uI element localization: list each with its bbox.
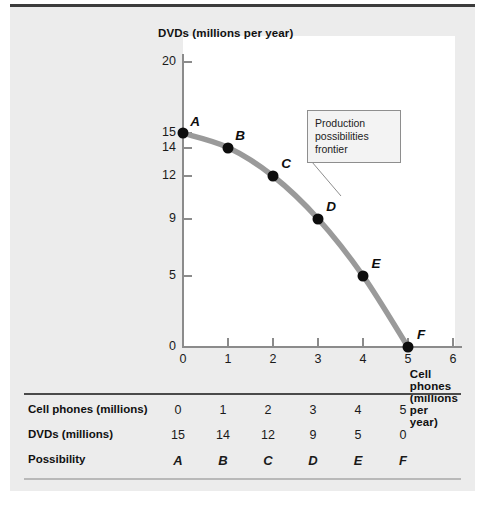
y-tick-label: 0 <box>169 339 176 353</box>
y-tick-mark <box>183 275 192 277</box>
table-cell: C <box>263 453 272 468</box>
table-cell: 0 <box>175 403 182 417</box>
plot-area <box>183 36 455 347</box>
y-tick-mark <box>183 61 192 63</box>
data-table: Cell phones (millions)012345DVDs (millio… <box>24 399 461 474</box>
point-label-f: F <box>417 327 425 342</box>
point-label-a: A <box>190 114 200 129</box>
y-tick-label: 9 <box>169 211 176 225</box>
table-cell: 3 <box>310 403 317 417</box>
x-axis-line <box>183 346 462 348</box>
point-label-b: B <box>235 127 245 142</box>
data-point-f <box>403 342 414 353</box>
table-row: Cell phones (millions)012345 <box>24 399 461 424</box>
table-cell: 4 <box>355 403 362 417</box>
x-tick-mark <box>272 338 274 346</box>
x-tick-label: 5 <box>405 352 412 366</box>
y-tick-label: 20 <box>162 54 176 68</box>
table-cell: 9 <box>310 428 317 442</box>
callout-line-2: possibilities <box>315 130 393 143</box>
table-cell: 5 <box>355 428 362 442</box>
x-tick-label: 3 <box>315 352 322 366</box>
y-tick-mark <box>183 218 192 220</box>
y-tick-label: 5 <box>169 268 176 282</box>
point-label-c: C <box>281 156 291 171</box>
bottom-divider <box>24 478 461 480</box>
table-cell: 2 <box>265 403 272 417</box>
point-label-d: D <box>326 198 336 213</box>
x-tick-mark <box>362 338 364 346</box>
x-tick-label: 2 <box>270 352 277 366</box>
y-tick-mark <box>183 175 192 177</box>
table-cell: 0 <box>400 428 407 442</box>
data-point-e <box>358 270 369 281</box>
y-tick-label: 12 <box>162 168 176 182</box>
figure-container: DVDs (millions per year) Cell phones (mi… <box>0 0 485 509</box>
table-row: DVDs (millions)151412950 <box>24 424 461 449</box>
table-top-rule <box>24 393 461 395</box>
table-cell: 12 <box>261 428 275 442</box>
table-cell: 15 <box>171 428 185 442</box>
y-tick-label: 14 <box>162 140 176 154</box>
data-point-c <box>268 171 279 182</box>
x-tick-label: 6 <box>450 352 457 366</box>
table-row-label: Possibility <box>28 453 86 465</box>
x-tick-label: 4 <box>360 352 367 366</box>
data-point-b <box>223 142 234 153</box>
x-tick-label: 0 <box>180 352 187 366</box>
y-axis-line <box>182 54 184 348</box>
table-row-label: DVDs (millions) <box>28 428 113 440</box>
x-tick-mark <box>227 338 229 346</box>
table-cell: D <box>308 453 317 468</box>
table-cell: A <box>173 453 182 468</box>
table-cell: 14 <box>216 428 230 442</box>
point-label-e: E <box>371 255 380 270</box>
table-row-label: Cell phones (millions) <box>28 403 147 415</box>
table-row: PossibilityABCDEF <box>24 449 461 474</box>
top-divider <box>10 4 475 7</box>
callout-line-1: Production <box>315 117 393 130</box>
x-tick-label: 1 <box>225 352 232 366</box>
table-cell: 5 <box>400 403 407 417</box>
y-axis-title: DVDs (millions per year) <box>158 27 293 39</box>
y-tick-mark <box>183 147 192 149</box>
x-tick-mark <box>452 338 454 346</box>
table-cell: B <box>218 453 227 468</box>
data-point-a <box>178 128 189 139</box>
data-point-d <box>313 213 324 224</box>
x-tick-mark <box>317 338 319 346</box>
table-cell: E <box>354 453 363 468</box>
table-cell: 1 <box>220 403 227 417</box>
y-tick-label: 15 <box>162 125 176 139</box>
callout-line-3: frontier <box>315 143 393 156</box>
table-cell: F <box>399 453 407 468</box>
ppf-annotation-callout: Production possibilities frontier <box>307 110 401 163</box>
